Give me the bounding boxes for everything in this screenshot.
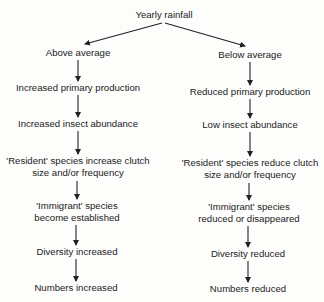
right-step-4: 'Immigrant' species reduced or disappear… [198,201,299,225]
right-step-6: Numbers reduced [210,283,286,295]
left-step-3-line-2: size and/or frequency [6,167,149,179]
left-step-2: Increased insect abundance [18,118,138,130]
right-step-5: Diversity reduced [211,248,285,260]
right-step-4-line-2: reduced or disappeared [198,213,299,225]
left-step-4-line-1: 'Immigrant' species [34,200,119,212]
left-step-4: 'Immigrant' species become established [34,200,119,224]
branch-below-average: Below average [218,49,281,61]
right-step-1: Reduced primary production [190,86,311,98]
right-step-4-line-1: 'Immigrant' species [198,201,299,213]
right-step-2: Low insect abundance [202,119,297,131]
root-node: Yearly rainfall [135,9,192,21]
right-step-3: 'Resident' species reduce clutch size an… [182,157,318,181]
right-step-3-line-2: size and/or frequency [182,169,318,181]
branch-above-average: Above average [46,47,111,59]
left-step-1: Increased primary production [16,82,140,94]
right-step-3-line-1: 'Resident' species reduce clutch [182,157,318,169]
left-step-4-line-2: become established [34,212,119,224]
left-step-3-line-1: 'Resident' species increase clutch [6,155,149,167]
left-step-6: Numbers increased [34,282,117,294]
left-step-5: Diversity increased [36,246,117,258]
left-step-3: 'Resident' species increase clutch size … [6,155,149,179]
